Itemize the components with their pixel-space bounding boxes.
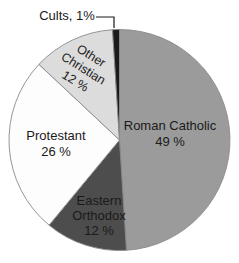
slice-label-eastern-orthodox: Eastern Orthodox 12 % <box>68 193 130 238</box>
slice-percent: 49 % <box>124 134 217 150</box>
slice-percent: 26 % <box>26 144 85 160</box>
slice-name: Roman Catholic <box>124 118 217 134</box>
pie-chart-figure: Cults, 1% Roman Catholic 49 % Protestant… <box>0 0 239 263</box>
cults-leader-line <box>96 17 114 28</box>
slice-label-protestant: Protestant 26 % <box>26 128 85 160</box>
slice-name: Eastern Orthodox <box>68 193 130 223</box>
slice-name: Protestant <box>26 128 85 144</box>
callout-label-cults: Cults, 1% <box>39 8 95 24</box>
slice-percent: 12 % <box>68 223 130 238</box>
slice-label-roman-catholic: Roman Catholic 49 % <box>124 118 217 150</box>
